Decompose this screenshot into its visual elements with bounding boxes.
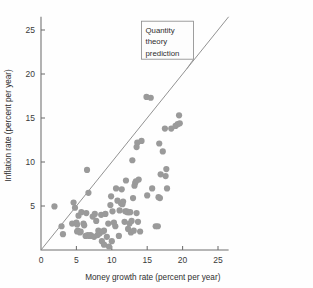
scatter-point [148, 95, 154, 101]
x-tick-label: 5 [74, 255, 79, 265]
scatter-point [135, 219, 141, 225]
y-tick-label: 20 [26, 69, 36, 79]
scatter-point [112, 223, 118, 229]
scatter-point [83, 210, 89, 216]
x-axis-title: Money growth rate (percent per year) [85, 273, 220, 282]
scatter-point [51, 203, 57, 209]
y-tick-label: 10 [26, 157, 36, 167]
scatter-point [162, 125, 168, 131]
scatter-point [101, 228, 107, 234]
annotation-leader-line [187, 59, 194, 69]
scatter-point [160, 148, 166, 154]
scatter-point [157, 195, 163, 201]
scatter-point [127, 209, 133, 215]
scatter-point [177, 120, 183, 126]
x-axis-tick-labels: 0510152025 [39, 255, 223, 265]
scatter-point [72, 205, 78, 211]
scatter-point [130, 195, 136, 201]
x-tick-label: 25 [213, 255, 223, 265]
scatter-point [144, 192, 150, 198]
scatter-point [136, 177, 142, 183]
scatter-point [123, 177, 129, 183]
scatter-point [60, 231, 66, 237]
scatter-point [70, 199, 76, 205]
scatter-point [116, 207, 122, 213]
x-tick-label: 10 [107, 255, 117, 265]
scatter-point [138, 138, 144, 144]
scatter-point [102, 211, 108, 217]
scatter-point [107, 202, 113, 208]
scatter-point [120, 199, 126, 205]
scatter-point [109, 208, 115, 214]
scatter-point [85, 190, 91, 196]
scatter-point [58, 223, 64, 229]
annotation-group: Quantity theory prediction [142, 21, 194, 69]
y-tick-label: 15 [26, 113, 36, 123]
scatter-point [105, 221, 111, 227]
scatter-point [84, 167, 90, 173]
scatter-point [163, 173, 169, 179]
scatter-point [93, 218, 99, 224]
scatter-point [92, 211, 98, 217]
scatter-point [156, 140, 162, 146]
annotation-line-2: theory [146, 37, 168, 46]
scatter-point [106, 243, 112, 249]
scatter-point [104, 234, 110, 240]
y-tick-label: 5 [30, 201, 35, 211]
scatter-point [119, 186, 125, 192]
scatter-point [137, 228, 143, 234]
scatter-point [108, 193, 114, 199]
scatter-point [129, 218, 135, 224]
scatter-point [163, 166, 169, 172]
scatter-point [116, 233, 122, 239]
x-tick-label: 0 [39, 255, 44, 265]
scatter-point [149, 185, 155, 191]
y-axis-title: Inflation rate (percent per year) [4, 69, 13, 182]
y-axis-tick-labels: 510152025 [26, 25, 36, 211]
scatter-point [109, 238, 115, 244]
scatter-point [74, 221, 80, 227]
scatter-point [133, 210, 139, 216]
x-tick-label: 20 [178, 255, 188, 265]
scatter-point [129, 157, 135, 163]
x-axis-tick-marks [76, 246, 218, 250]
scatter-point [176, 112, 182, 118]
annotation-line-1: Quantity [146, 26, 175, 35]
scatter-point [164, 185, 170, 191]
x-tick-label: 15 [142, 255, 152, 265]
scatter-point [81, 222, 87, 228]
scatter-point [131, 228, 137, 234]
scatter-plot-figure: 0510152025 510152025 Quantity theory pre… [0, 0, 313, 288]
scatter-point [113, 185, 119, 191]
y-tick-label: 25 [26, 25, 36, 35]
chart-canvas: 0510152025 510152025 Quantity theory pre… [0, 0, 313, 288]
scatter-point [155, 223, 161, 229]
scatter-point [78, 228, 84, 234]
scatter-points-group [51, 94, 183, 250]
y-axis-tick-marks [41, 30, 45, 206]
annotation-line-3: prediction [146, 49, 180, 58]
